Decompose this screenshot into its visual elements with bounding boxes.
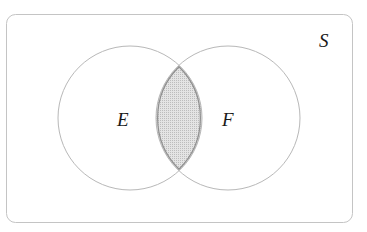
set-f-label: F <box>221 109 234 130</box>
universe-label: S <box>319 30 329 51</box>
venn-diagram: S E F <box>0 0 367 232</box>
set-e-label: E <box>116 109 129 130</box>
